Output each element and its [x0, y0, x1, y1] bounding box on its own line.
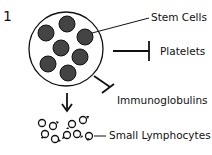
- small-lymphocytes-group: [39, 117, 93, 143]
- stem-cells-label: Stem Cells: [151, 11, 207, 23]
- small-lymphocytes-label: Small Lymphocytes: [109, 129, 211, 141]
- immunoglobulins-inhibition-line: [94, 76, 110, 87]
- stem-cells-leader-line: [92, 18, 149, 33]
- stem-cells-group: [38, 16, 93, 81]
- immunoglobulins-label: Immunoglobulins: [117, 94, 208, 106]
- platelets-label: Platelets: [160, 45, 205, 57]
